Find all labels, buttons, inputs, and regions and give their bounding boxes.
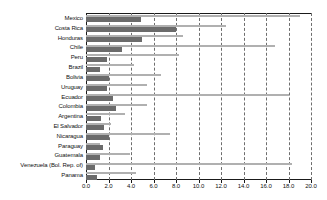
bar-series-2: [86, 76, 109, 81]
x-tick-label: 4.0: [127, 183, 135, 189]
bar-series-2: [86, 37, 142, 42]
category-label: Nicaragua: [57, 133, 83, 139]
bar-group: [86, 101, 311, 111]
x-tick-label: 12.0: [215, 183, 226, 189]
bar-series-2: [86, 67, 100, 72]
bar-group: [86, 131, 311, 141]
category-label: Honduras: [58, 35, 83, 41]
bar-series-2: [86, 27, 176, 32]
bar-group: [86, 33, 311, 43]
bar-group: [86, 170, 311, 180]
bar-group: [86, 52, 311, 62]
bar-series-2: [86, 125, 104, 130]
bar-series-2: [86, 106, 116, 111]
bar-group: [86, 121, 311, 131]
category-label: Colombia: [58, 103, 83, 109]
bar-series-2: [86, 145, 103, 150]
x-tick-label: 2.0: [104, 183, 112, 189]
bar-group: [86, 82, 311, 92]
category-label: Costa Rica: [55, 25, 83, 31]
category-label: Peru: [71, 54, 83, 60]
x-tick-label: 16.0: [260, 183, 271, 189]
bar-series-2: [86, 155, 100, 160]
x-tick-label: 20.0: [305, 183, 316, 189]
bar-group: [86, 13, 311, 23]
bar-group: [86, 72, 311, 82]
plot-area: [86, 13, 311, 180]
x-tick-label: 0.0: [82, 183, 90, 189]
category-label: Venezuela (Bol. Rep. of): [20, 162, 83, 168]
category-label: Ecuador: [61, 94, 83, 100]
category-label: Brazil: [69, 64, 83, 70]
bar-series-2: [86, 135, 109, 140]
bar-series-2: [86, 17, 141, 22]
gridline: [311, 13, 312, 180]
bar-series-2: [86, 175, 97, 180]
category-axis-labels: MexicoCosta RicaHondurasChilePeruBrazilB…: [0, 0, 83, 200]
bar-series-2: [86, 116, 101, 121]
bar-series-2: [86, 57, 107, 62]
x-tick-label: 6.0: [149, 183, 157, 189]
category-label: Paraguay: [58, 143, 83, 149]
bar-group: [86, 23, 311, 33]
bar-group: [86, 160, 311, 170]
x-tick-label: 8.0: [172, 183, 180, 189]
x-tick-label: 18.0: [283, 183, 294, 189]
category-label: Mexico: [65, 15, 83, 21]
bar-group: [86, 151, 311, 161]
category-label: Chile: [70, 44, 83, 50]
bar-group: [86, 141, 311, 151]
category-label: Guatemala: [55, 152, 83, 158]
category-label: Panama: [61, 172, 83, 178]
bar-series-2: [86, 96, 113, 101]
bar-group: [86, 62, 311, 72]
bar-series-1: [86, 163, 292, 165]
category-label: Bolivia: [66, 74, 83, 80]
bar-group: [86, 42, 311, 52]
x-tick-label: 14.0: [238, 183, 249, 189]
bar-series-2: [86, 47, 122, 52]
bar-series-2: [86, 165, 95, 170]
category-label: El Salvador: [53, 123, 83, 129]
category-label: Argentina: [58, 113, 83, 119]
bar-series-2: [86, 86, 107, 91]
bar-group: [86, 111, 311, 121]
bar-series-1: [86, 94, 289, 96]
bar-group: [86, 92, 311, 102]
category-label: Uruguay: [61, 84, 83, 90]
bar-chart: MexicoCosta RicaHondurasChilePeruBrazilB…: [0, 0, 327, 200]
x-tick-label: 10.0: [193, 183, 204, 189]
